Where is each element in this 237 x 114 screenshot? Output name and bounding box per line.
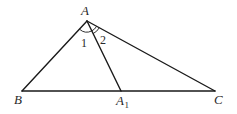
segment-ac [87, 21, 215, 91]
vertex-label-a1-subscript: 1 [124, 100, 129, 110]
angle-label-2: 2 [100, 33, 106, 47]
vertex-label-c: C [214, 92, 223, 107]
angle-1-arc [80, 29, 92, 32]
angle-2-arc-inner [92, 26, 97, 31]
angle-2-arc-outer [93, 28, 99, 34]
angle-label-1: 1 [81, 36, 87, 50]
segment-a-a1 [87, 21, 121, 91]
vertex-label-b: B [14, 92, 22, 107]
vertex-label-a1: A1 [115, 93, 129, 110]
vertex-label-a: A [80, 3, 89, 18]
triangle-diagram: A B A1 C 1 2 [0, 0, 237, 114]
vertex-label-a1-main: A [115, 93, 124, 108]
segment-ab [22, 21, 87, 91]
